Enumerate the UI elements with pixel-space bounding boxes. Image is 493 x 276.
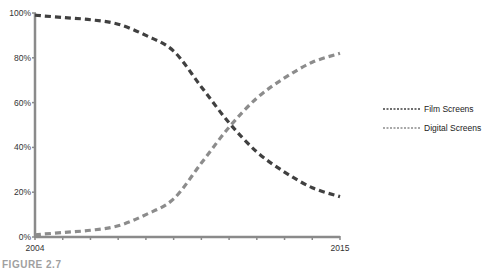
series-line-film-screens xyxy=(35,15,340,196)
y-tick-label: 80% xyxy=(14,53,31,63)
figure-caption: FIGURE 2.7 xyxy=(2,259,61,270)
y-tick-label: 0% xyxy=(19,232,32,242)
legend-label: Film Screens xyxy=(424,104,474,114)
x-tick-label: 2004 xyxy=(26,243,45,253)
series-lines xyxy=(35,15,340,235)
legend: Film ScreensDigital Screens xyxy=(383,104,481,133)
y-tick-label: 40% xyxy=(14,142,31,152)
y-ticks: 0%20%40%60%80%100% xyxy=(9,8,36,242)
line-chart: 0%20%40%60%80%100% 20042015 Film Screens… xyxy=(0,0,493,276)
x-tick-label: 2015 xyxy=(331,243,350,253)
y-tick-label: 100% xyxy=(9,8,31,18)
legend-label: Digital Screens xyxy=(424,123,481,133)
y-tick-label: 20% xyxy=(14,187,31,197)
series-line-digital-screens xyxy=(35,53,340,234)
axes: 0%20%40%60%80%100% 20042015 xyxy=(9,8,349,253)
y-tick-label: 60% xyxy=(14,98,31,108)
x-ticks: 20042015 xyxy=(26,236,350,253)
